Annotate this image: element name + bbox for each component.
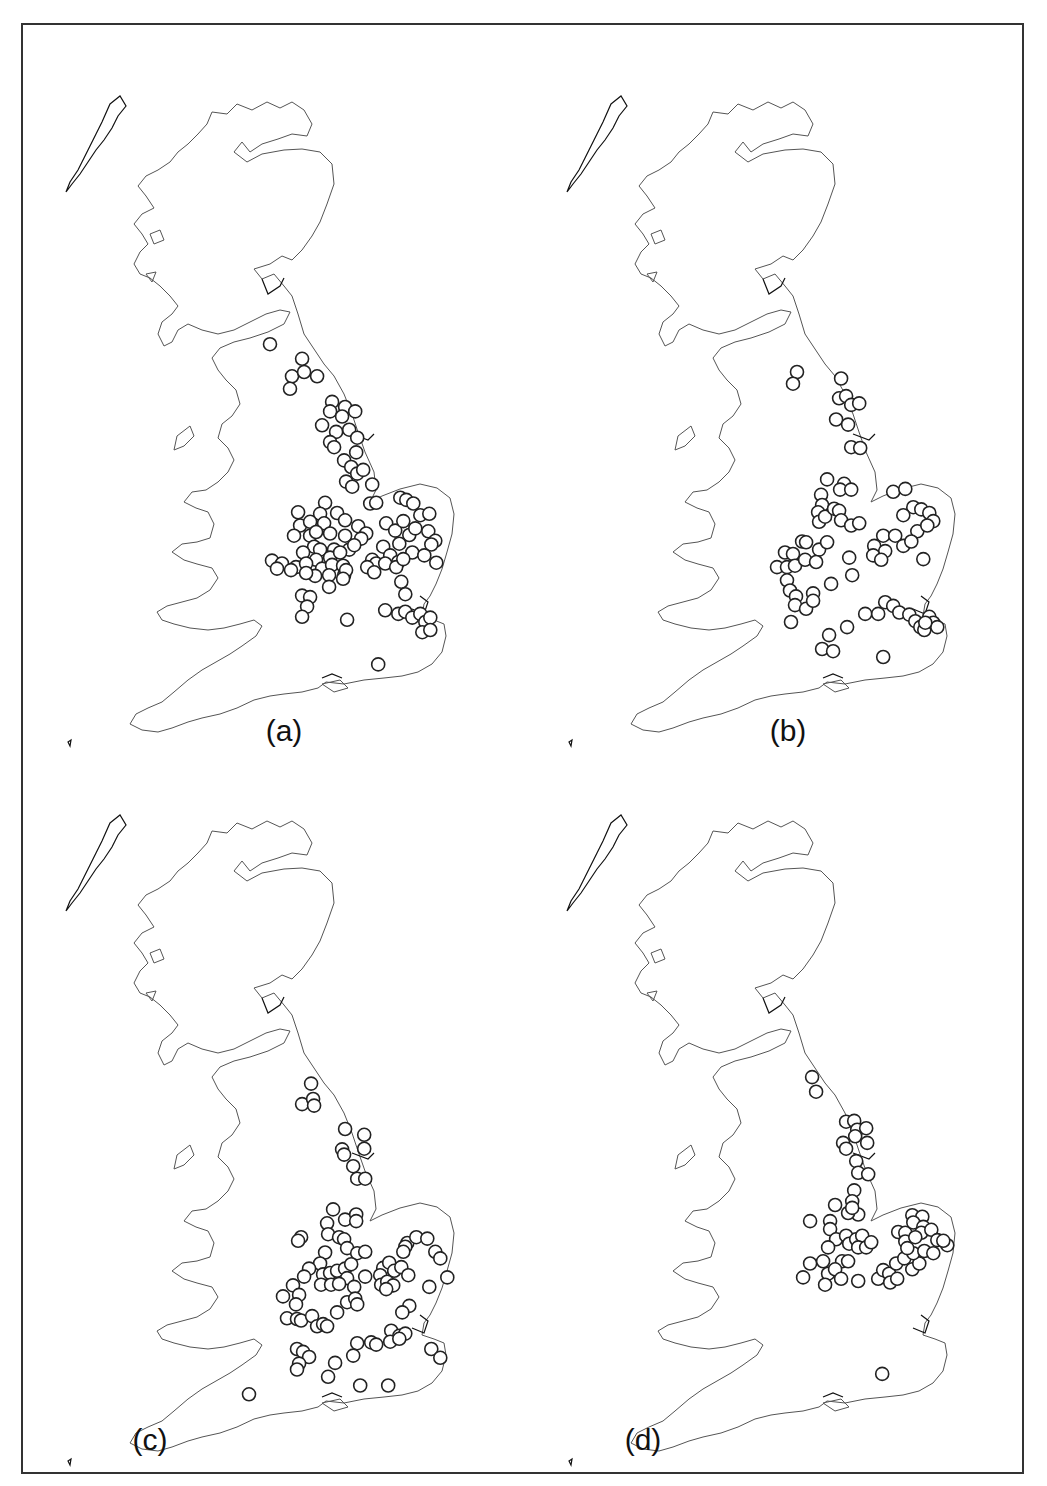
site-marker (277, 1290, 290, 1303)
site-marker (853, 397, 866, 410)
site-marker (827, 645, 840, 658)
site-marker (931, 621, 944, 634)
site-marker (850, 1155, 863, 1168)
site-marker (359, 1245, 372, 1258)
site-marker (821, 536, 834, 549)
site-marker (305, 1077, 318, 1090)
map-panel-a: (a) (22, 24, 523, 755)
site-marker (296, 352, 309, 365)
site-marker (845, 483, 858, 496)
site-marker (347, 1160, 360, 1173)
site-marker (329, 1356, 342, 1369)
site-markers (264, 338, 443, 671)
site-marker (338, 1148, 351, 1161)
site-marker (366, 478, 379, 491)
site-marker (382, 1379, 395, 1392)
site-marker (877, 651, 890, 664)
site-marker (397, 553, 410, 566)
site-marker (841, 621, 854, 634)
site-marker (821, 473, 834, 486)
map-panel-c: (c) (22, 743, 523, 1474)
site-marker (393, 1332, 406, 1345)
site-marker (354, 1379, 367, 1392)
site-marker (290, 1298, 303, 1311)
site-marker (327, 1203, 340, 1216)
site-markers (797, 1071, 954, 1381)
site-marker (286, 370, 299, 383)
site-marker (346, 480, 359, 493)
site-marker (243, 1388, 256, 1401)
site-marker (810, 1085, 823, 1098)
site-marker (905, 535, 918, 548)
site-marker (423, 1280, 436, 1293)
site-marker (829, 1199, 842, 1212)
coastline (567, 815, 955, 1465)
site-marker (300, 567, 313, 580)
site-marker (822, 1241, 835, 1254)
site-marker (891, 1272, 904, 1285)
site-marker (357, 463, 370, 476)
site-marker (434, 1252, 447, 1265)
site-marker (310, 526, 323, 539)
site-marker (409, 522, 422, 535)
site-marker (807, 594, 820, 607)
site-marker (835, 1272, 848, 1285)
site-marker (823, 629, 836, 642)
site-marker (328, 441, 341, 454)
site-marker (937, 1234, 950, 1247)
site-marker (861, 1136, 874, 1149)
site-marker (840, 1142, 853, 1155)
site-marker (819, 1278, 832, 1291)
site-marker (322, 1370, 335, 1383)
site-marker (919, 616, 932, 629)
site-marker (347, 1349, 360, 1362)
site-marker (296, 610, 309, 623)
site-marker (333, 1277, 346, 1290)
site-marker (292, 506, 305, 519)
site-marker (806, 1071, 819, 1084)
site-marker (316, 419, 329, 432)
site-marker (842, 418, 855, 431)
site-marker (321, 1320, 334, 1333)
site-marker (830, 413, 843, 426)
site-marker (291, 1363, 304, 1376)
site-marker (351, 431, 364, 444)
site-marker (423, 507, 436, 520)
site-marker (430, 556, 443, 569)
site-marker (418, 549, 431, 562)
site-marker (395, 575, 408, 588)
site-marker (284, 382, 297, 395)
site-marker (311, 370, 324, 383)
site-marker (370, 1338, 383, 1351)
site-marker (909, 1231, 922, 1244)
panel-label-c: (c) (133, 1423, 168, 1457)
site-marker (397, 515, 410, 528)
map-panel-b: (b) (523, 24, 1024, 755)
map-panel-d: (d) (523, 743, 1024, 1474)
site-marker (397, 1245, 410, 1258)
site-marker (339, 514, 352, 527)
site-marker (323, 580, 336, 593)
site-marker (810, 556, 823, 569)
site-marker (434, 1351, 447, 1364)
site-marker (339, 1123, 352, 1136)
site-marker (351, 1337, 364, 1350)
site-marker (298, 366, 311, 379)
map-c (22, 743, 523, 1474)
site-marker (865, 1236, 878, 1249)
site-marker (370, 496, 383, 509)
site-marker (852, 1275, 865, 1288)
site-marker (804, 1257, 817, 1270)
site-marker (897, 509, 910, 522)
site-marker (379, 604, 392, 617)
coastline (66, 815, 454, 1465)
site-marker (399, 588, 412, 601)
site-marker (349, 405, 362, 418)
site-marker (324, 405, 337, 418)
map-a (22, 24, 523, 755)
site-marker (424, 624, 437, 637)
map-d (523, 743, 1024, 1474)
site-marker (331, 1306, 344, 1319)
site-marker (350, 446, 363, 459)
site-markers (771, 366, 944, 664)
